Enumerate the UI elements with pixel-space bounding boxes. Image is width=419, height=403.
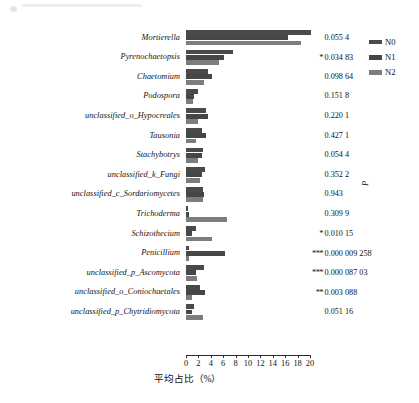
bar-n0 bbox=[186, 50, 233, 55]
bar-n0 bbox=[186, 285, 200, 290]
x-axis-tick bbox=[298, 355, 299, 358]
significance-stars: * bbox=[312, 53, 323, 62]
p-value-text: 0.055 4 bbox=[325, 34, 350, 42]
chart-row: Schizothecium*0.010 15 bbox=[0, 224, 419, 244]
x-axis-tick-label: 6 bbox=[221, 360, 225, 368]
legend-item-n2[interactable]: N2 bbox=[369, 67, 396, 79]
x-axis-tick-label: 4 bbox=[209, 360, 213, 368]
bar-n2 bbox=[186, 237, 212, 242]
category-label: Schizothecium bbox=[0, 230, 183, 238]
bar-n2 bbox=[186, 60, 219, 65]
x-axis-tick bbox=[273, 355, 274, 358]
bar-group bbox=[186, 147, 314, 164]
bar-group bbox=[186, 186, 314, 203]
x-axis-tick bbox=[186, 355, 187, 358]
x-axis-tick-label: 16 bbox=[281, 360, 289, 368]
x-axis-tick-label: 2 bbox=[196, 360, 200, 368]
x-axis-tick-label: 18 bbox=[293, 360, 301, 368]
bar-group bbox=[186, 167, 314, 184]
bar-n2 bbox=[186, 139, 196, 144]
p-value-cell: 0.943 bbox=[312, 190, 416, 198]
bar-n2 bbox=[186, 217, 227, 222]
bar-n1 bbox=[186, 231, 192, 236]
chart-legend: N0N1N2 bbox=[369, 36, 396, 82]
bar-group bbox=[186, 108, 314, 125]
p-value-text: 0.010 15 bbox=[325, 230, 354, 238]
x-axis-tick-label: 12 bbox=[256, 360, 264, 368]
bar-n1 bbox=[186, 153, 202, 158]
category-label: Pyrenochaetopsis bbox=[0, 53, 183, 61]
significance-stars: * bbox=[312, 229, 323, 238]
p-value-cell: 0.151 8 bbox=[312, 92, 416, 100]
chart-row: Podospora0.151 8 bbox=[0, 87, 419, 107]
bar-n2 bbox=[186, 276, 197, 281]
x-axis-tick-label: 8 bbox=[234, 360, 238, 368]
significance-stars: ** bbox=[312, 288, 323, 297]
bar-n2 bbox=[186, 41, 301, 46]
p-value-cell: 0.055 4 bbox=[312, 34, 416, 42]
p-value-text: 0.943 bbox=[325, 190, 343, 198]
bar-n1 bbox=[186, 290, 205, 295]
bar-n2 bbox=[186, 256, 189, 261]
chart-row: Penicillium***0.000 009 258 bbox=[0, 244, 419, 264]
x-axis-tick bbox=[198, 355, 199, 358]
chart-row: Chaetomium0.098 64 bbox=[0, 67, 419, 87]
category-label: unclassified_p_Chytridiomycota bbox=[0, 308, 183, 316]
p-value-cell: ***0.000 087 03 bbox=[312, 268, 416, 277]
p-value-text: 0.098 64 bbox=[325, 73, 354, 81]
chart-row: Tausonia0.427 1 bbox=[0, 126, 419, 146]
category-label: Mortierella bbox=[0, 34, 183, 42]
category-label: Podospora bbox=[0, 92, 183, 100]
category-label: unclassified_o_Coniochaetales bbox=[0, 288, 183, 296]
legend-label: N1 bbox=[385, 53, 396, 62]
x-axis-tick-label: 0 bbox=[184, 360, 188, 368]
chart-row: unclassified_p_Chytridiomycota0.051 16 bbox=[0, 302, 419, 322]
bar-n1 bbox=[186, 133, 206, 138]
x-axis-tick-label: 20 bbox=[306, 360, 314, 368]
horizontal-bar-chart: Mortierella0.055 4Pyrenochaetopsis*0.034… bbox=[0, 0, 419, 403]
bar-n1 bbox=[186, 55, 224, 60]
bar-n2 bbox=[186, 295, 192, 300]
bar-n1 bbox=[186, 74, 212, 79]
bar-n1 bbox=[186, 172, 202, 177]
scan-artifact-dot bbox=[10, 6, 17, 12]
bar-group bbox=[186, 69, 314, 86]
p-value-text: 0.000 087 03 bbox=[325, 269, 368, 277]
p-value-text: 0.309 9 bbox=[325, 210, 350, 218]
p-value-cell: **0.003 088 bbox=[312, 288, 416, 297]
category-label: Tausonia bbox=[0, 132, 183, 140]
legend-swatch-icon bbox=[369, 70, 382, 75]
bar-n0 bbox=[186, 69, 208, 74]
chart-row: unclassified_k_Fungi0.352 2 bbox=[0, 165, 419, 185]
p-value-cell: 0.098 64 bbox=[312, 73, 416, 81]
chart-row: Stachybotrys0.054 4 bbox=[0, 146, 419, 166]
legend-item-n0[interactable]: N0 bbox=[369, 36, 396, 48]
legend-item-n1[interactable]: N1 bbox=[369, 51, 396, 63]
p-value-text: 0.151 8 bbox=[325, 92, 350, 100]
chart-rows: Mortierella0.055 4Pyrenochaetopsis*0.034… bbox=[0, 28, 419, 322]
bar-n0 bbox=[186, 148, 203, 153]
bar-group bbox=[186, 88, 314, 105]
category-label: Trichoderma bbox=[0, 210, 183, 218]
p-value-cell: 0.352 2 bbox=[312, 171, 416, 179]
p-value-text: 0.220 1 bbox=[325, 112, 350, 120]
significance-stars: *** bbox=[312, 268, 323, 277]
bar-n0 bbox=[186, 206, 188, 211]
p-value-cell: *0.034 83 bbox=[312, 53, 416, 62]
legend-swatch-icon bbox=[369, 40, 382, 45]
bar-group bbox=[186, 206, 314, 223]
category-label: Stachybotrys bbox=[0, 151, 183, 159]
bar-n1 bbox=[186, 251, 225, 256]
chart-row: Pyrenochaetopsis*0.034 83 bbox=[0, 48, 419, 68]
bar-n2 bbox=[186, 99, 193, 104]
x-axis-tick bbox=[236, 355, 237, 358]
chart-row: unclassified_o_Hypocreales0.220 1 bbox=[0, 106, 419, 126]
bar-n0 bbox=[186, 265, 204, 270]
bar-n0 bbox=[186, 226, 196, 231]
scan-artifact-line bbox=[22, 4, 142, 7]
bar-n0 bbox=[186, 167, 205, 172]
category-label: unclassified_k_Fungi bbox=[0, 171, 183, 179]
bar-group bbox=[186, 265, 314, 282]
chart-row: Trichoderma0.309 9 bbox=[0, 204, 419, 224]
p-value-column-title: P bbox=[360, 181, 370, 186]
